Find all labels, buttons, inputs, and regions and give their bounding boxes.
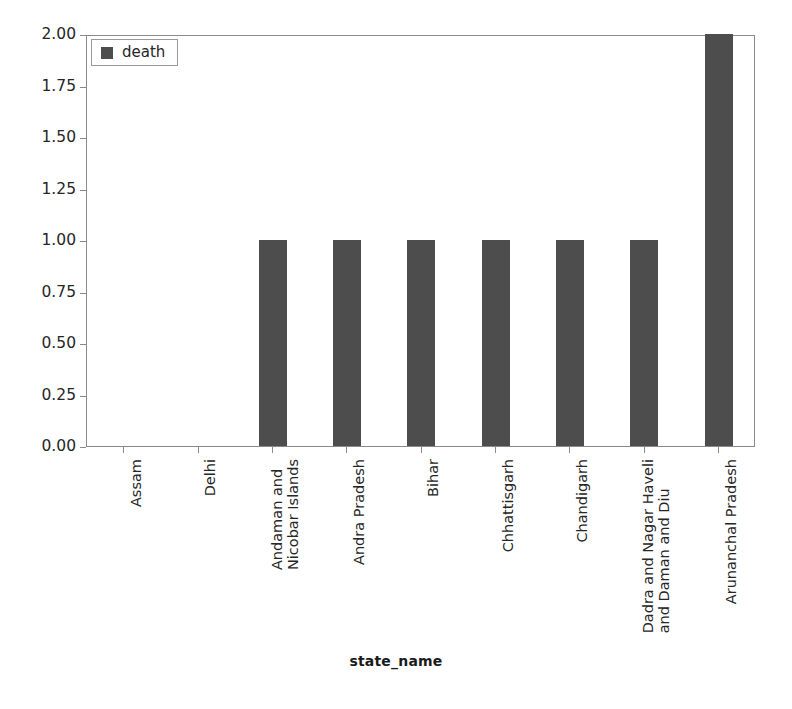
y-axis-tick-label: 0.75 [18,285,76,301]
x-axis-tick-label-line: Chhattisgarh [500,459,516,552]
x-axis-tick-mark [495,447,496,453]
y-axis-tick-mark [80,447,86,448]
x-axis-tick-label-line: Andaman and [269,459,285,570]
legend-swatch-death [101,47,113,59]
bar-slot [533,36,607,446]
bar-slot [236,36,310,446]
bar[interactable] [259,240,287,446]
bar-slot [161,36,235,446]
x-axis-tick-label-line: Chandigarh [574,459,590,543]
x-axis-tick-label-line: Dadra and Nagar Haveli [640,459,656,633]
plot-area: death [86,35,755,447]
y-axis-tick-label: 0.50 [18,336,76,352]
bar[interactable] [630,240,658,446]
bars-layer [87,36,754,446]
x-axis-tick-label: Assam [128,459,144,507]
x-axis-tick-label: Arunanchal Pradesh [723,459,739,604]
bar-slot [682,36,756,446]
y-axis-tick-label: 1.25 [18,182,76,198]
x-axis-tick-label-line: and Daman and Diu [656,459,672,633]
x-axis-tick-mark [346,447,347,453]
x-axis-tick-label-line: Nicobar Islands [285,459,301,570]
x-axis-tick-label-line: Delhi [202,459,218,496]
x-axis-title: state_name [0,653,792,669]
bar-slot [384,36,458,446]
x-axis-tick-label: Dadra and Nagar Haveliand Daman and Diu [640,459,672,633]
x-axis-tick-label-line: Assam [128,459,144,507]
x-axis-tick-mark [421,447,422,453]
bar-slot [310,36,384,446]
bar[interactable] [407,240,435,446]
bar[interactable] [333,240,361,446]
bar-slot [607,36,681,446]
y-axis-tick-label: 1.50 [18,130,76,146]
x-axis-tick-mark [123,447,124,453]
x-axis-tick-mark [569,447,570,453]
y-axis-tick-label: 1.00 [18,233,76,249]
legend-label-death: death [122,45,165,60]
x-axis-tick-label-line: Arunanchal Pradesh [723,459,739,604]
bar[interactable] [556,240,584,446]
x-axis-tick-mark [272,447,273,453]
x-axis-tick-label: Bihar [425,459,441,497]
bar[interactable] [482,240,510,446]
bar[interactable] [705,34,733,446]
bar-slot [459,36,533,446]
x-axis-tick-label: Delhi [202,459,218,496]
y-axis-tick-label: 1.75 [18,79,76,95]
x-axis-tick-mark [644,447,645,453]
x-axis-tick-label-line: Andra Pradesh [351,459,367,565]
chart-legend: death [91,39,178,66]
y-axis-tick-label: 0.00 [18,439,76,455]
bar-slot [87,36,161,446]
y-axis-tick-label: 2.00 [18,27,76,43]
x-axis-tick-label-line: Bihar [425,459,441,497]
x-axis-tick-mark [718,447,719,453]
x-axis-tick-label: Chandigarh [574,459,590,543]
x-axis-tick-label: Chhattisgarh [500,459,516,552]
x-axis-tick-label: Andaman andNicobar Islands [269,459,301,570]
x-axis-tick-mark [198,447,199,453]
y-axis-tick-label: 0.25 [18,388,76,404]
x-axis-tick-label: Andra Pradesh [351,459,367,565]
chart-figure: 0.000.250.500.751.001.251.501.752.00 dea… [0,0,792,709]
